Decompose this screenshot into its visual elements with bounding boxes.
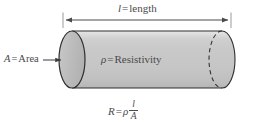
length-text: length — [129, 2, 157, 14]
length-label: l=length — [118, 3, 157, 14]
resistivity-label: ρ=Resistivity — [101, 54, 162, 65]
formula-rho-symbol: ρ — [123, 105, 128, 117]
formula-denominator: A — [129, 111, 138, 122]
area-text: Area — [18, 53, 38, 64]
resistivity-cylinder-figure: l=length A=Area ρ=Resistivity R=ρlA — [0, 0, 262, 124]
length-dimension-line — [63, 13, 231, 29]
area-label: A=Area — [4, 54, 39, 65]
rho-equals-sign: = — [106, 53, 114, 65]
resistivity-text: Resistivity — [115, 53, 162, 65]
resistance-formula: R=ρlA — [108, 99, 138, 122]
near-end-cap-ellipse — [59, 31, 85, 88]
formula-fraction: lA — [129, 99, 138, 122]
formula-numerator: l — [129, 99, 138, 111]
formula-equals-sign: = — [115, 105, 123, 117]
formula-resistance-symbol: R — [108, 105, 115, 117]
